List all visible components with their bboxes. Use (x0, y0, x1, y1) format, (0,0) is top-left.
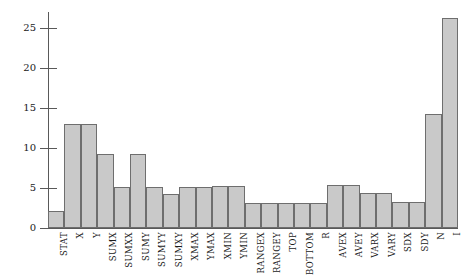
x-axis-tick-label: SDX (404, 232, 413, 252)
bar (310, 203, 326, 228)
bar (278, 203, 294, 228)
x-axis-tick-label: VARY (388, 232, 397, 257)
x-axis-tick-label: AVEY (355, 232, 364, 257)
bar (442, 18, 458, 228)
bar (392, 202, 408, 228)
x-axis-tick-label: R (322, 232, 331, 239)
x-axis-line (48, 228, 458, 229)
x-axis-tick-label: Y (93, 232, 102, 238)
x-axis-tick-label: SUMX (109, 232, 118, 261)
y-axis-tick-label: 20 (4, 63, 36, 73)
bar (163, 194, 179, 228)
y-axis-tick-label: 0 (4, 223, 36, 233)
bar (64, 124, 80, 228)
x-axis-tick-label: SUMXX (125, 232, 134, 268)
x-axis-tick-labels: STATXYSUMXSUMXXSUMYSUMYYSUMXYXMAXYMAXXMI… (48, 230, 458, 278)
bar (146, 187, 162, 228)
y-axis-tick-label: 25 (4, 23, 36, 33)
bar (294, 203, 310, 228)
bar (360, 193, 376, 228)
bar (376, 193, 392, 228)
bar (245, 203, 261, 228)
x-axis-tick-label: TOP (289, 232, 298, 252)
x-axis-tick-label: RANGEX (257, 232, 266, 273)
bar (343, 185, 359, 228)
x-axis-tick-label: STAT (60, 232, 69, 256)
x-axis-tick-label: RANGEY (273, 232, 282, 273)
bar (179, 187, 195, 228)
x-axis-tick-label: N (437, 232, 446, 240)
y-axis-tick-label: 15 (4, 103, 36, 113)
x-axis-tick-label: SUMYY (158, 232, 167, 267)
y-axis-tick-label: 5 (4, 183, 36, 193)
y-axis-tick-label: 10 (4, 143, 36, 153)
bar (327, 185, 343, 228)
x-axis-tick-label: XMIN (224, 232, 233, 259)
bar (425, 114, 441, 228)
bars-group (48, 12, 458, 228)
bar-chart: 0510152025 STATXYSUMXSUMXXSUMYSUMYYSUMXY… (0, 0, 465, 278)
bar (48, 211, 64, 228)
bar (114, 187, 130, 228)
bar (261, 203, 277, 228)
x-axis-tick-label: BOTTOM (306, 232, 315, 275)
bar (130, 154, 146, 228)
x-axis-tick-label: SUMXY (175, 232, 184, 267)
x-axis-tick-label: YMAX (207, 232, 216, 260)
bar (409, 202, 425, 228)
bar (196, 187, 212, 228)
x-axis-tick-label: VARX (371, 232, 380, 258)
x-axis-tick-label: SUMY (142, 232, 151, 261)
bar (228, 186, 244, 228)
x-axis-tick-label: YMIN (240, 232, 249, 259)
y-axis-tick (40, 228, 57, 229)
x-axis-tick-label: AVEX (339, 232, 348, 258)
x-axis-tick-label: XMAX (191, 232, 200, 261)
x-axis-tick-label: SDY (421, 232, 430, 251)
x-axis-tick-label: I (453, 232, 462, 236)
bar (212, 186, 228, 228)
x-axis-tick-label: X (76, 232, 85, 238)
bar (81, 124, 97, 228)
bar (97, 154, 113, 228)
